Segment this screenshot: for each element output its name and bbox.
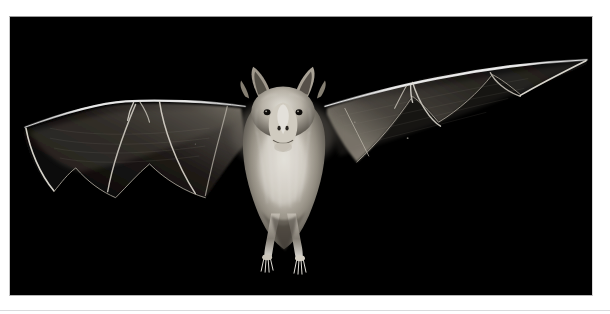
footer-separator-rule	[0, 310, 610, 311]
caption-area	[9, 298, 593, 309]
page-root	[0, 0, 610, 314]
photo-panel	[9, 16, 593, 296]
photo-stage	[10, 17, 592, 295]
bat-photograph-image	[10, 17, 592, 295]
